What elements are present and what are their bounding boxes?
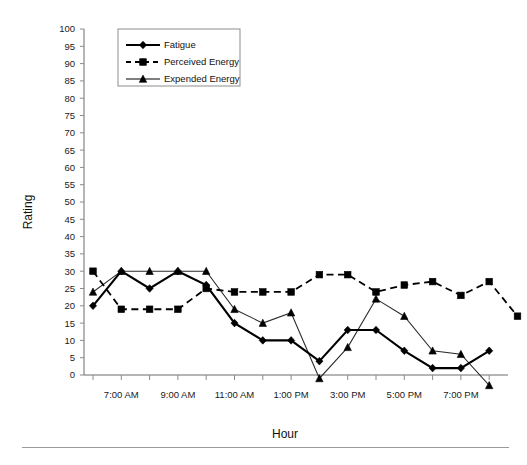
data-point-square [288, 289, 295, 296]
y-tick-label: 70 [64, 127, 75, 138]
y-tick-label: 35 [64, 248, 75, 259]
series-layer [89, 267, 521, 388]
series-perceived-energy [90, 268, 521, 320]
data-point-square [231, 289, 238, 296]
y-tick-label: 50 [64, 196, 75, 207]
y-tick-label: 5 [70, 352, 75, 363]
data-point-triangle [287, 309, 294, 316]
series-polyline [93, 271, 518, 316]
data-point-triangle [89, 288, 96, 295]
data-point-square [458, 292, 465, 299]
data-point-triangle [372, 295, 379, 302]
data-point-square [146, 306, 153, 313]
y-tick-label: 40 [64, 231, 75, 242]
legend-label: Fatigue [164, 39, 196, 50]
x-tick-label: 7:00 AM [104, 389, 139, 400]
data-point-triangle [259, 319, 266, 326]
y-axis-ticks: 0510152025303540455055606570758085909510… [59, 23, 84, 380]
data-point-square [90, 268, 97, 275]
legend: FatiguePerceived EnergyExpended Energy [118, 29, 240, 86]
x-tick-label: 9:00 AM [160, 389, 195, 400]
y-axis-title: Rating [21, 195, 35, 230]
chart-container: 0510152025303540455055606570758085909510… [0, 0, 527, 465]
y-tick-label: 10 [64, 335, 75, 346]
y-tick-label: 65 [64, 145, 75, 156]
footer-divider [22, 447, 509, 448]
data-point-square [429, 278, 436, 285]
y-tick-label: 60 [64, 162, 75, 173]
data-point-square [514, 313, 521, 320]
x-tick-label: 7:00 PM [443, 389, 478, 400]
y-tick-label: 15 [64, 318, 75, 329]
legend-label: Expended Energy [164, 73, 240, 84]
y-tick-label: 90 [64, 58, 75, 69]
y-tick-label: 80 [64, 93, 75, 104]
data-point-square [260, 289, 267, 296]
legend-label: Perceived Energy [164, 56, 239, 67]
data-point-square [118, 306, 125, 313]
y-tick-label: 20 [64, 300, 75, 311]
x-axis-title: Hour [272, 427, 298, 441]
y-tick-label: 95 [64, 41, 75, 52]
data-point-square [344, 271, 351, 278]
data-point-triangle [401, 312, 408, 319]
y-tick-label: 0 [70, 369, 75, 380]
data-point-square [486, 278, 493, 285]
data-point-square [140, 59, 147, 66]
y-tick-label: 75 [64, 110, 75, 121]
x-tick-label: 11:00 AM [215, 389, 255, 400]
data-point-square [175, 306, 182, 313]
y-tick-label: 30 [64, 266, 75, 277]
data-point-square [373, 289, 380, 296]
x-axis-ticks: 7:00 AM9:00 AM11:00 AM1:00 PM3:00 PM5:00… [93, 375, 489, 400]
y-tick-label: 25 [64, 283, 75, 294]
y-tick-label: 100 [59, 23, 75, 34]
x-tick-label: 3:00 PM [330, 389, 365, 400]
x-tick-label: 5:00 PM [387, 389, 422, 400]
line-chart: 0510152025303540455055606570758085909510… [0, 0, 527, 465]
y-tick-label: 85 [64, 75, 75, 86]
data-point-square [316, 271, 323, 278]
y-tick-label: 45 [64, 214, 75, 225]
x-tick-label: 1:00 PM [273, 389, 308, 400]
data-point-triangle [344, 343, 351, 350]
data-point-square [401, 282, 408, 289]
y-tick-label: 55 [64, 179, 75, 190]
